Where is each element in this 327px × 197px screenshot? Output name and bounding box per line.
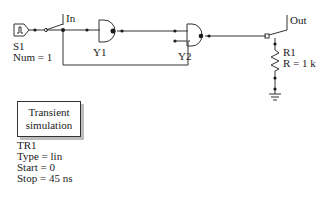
gate-y1-label: Y1 [93,47,106,58]
simulation-params: TR1 Type = lin Start = 0 Stop = 45 ns [17,140,72,184]
resistor-r1[interactable] [271,38,279,90]
output-switch[interactable] [265,15,287,38]
transient-simulation-block[interactable]: Transient simulation [17,101,81,137]
sim-block-line2: simulation [26,119,72,132]
sim-block-line1: Transient [28,106,69,119]
resistor-param: R = 1 k [283,58,316,69]
input-switch-label: In [66,13,75,24]
gate-y2-label: Y2 [178,51,191,62]
source-param: Num = 1 [13,52,52,63]
junction-dots [33,28,276,91]
input-switch[interactable] [44,14,63,32]
wire [63,30,190,65]
pulse-source-icon[interactable] [14,24,29,36]
output-switch-label: Out [290,15,307,26]
sim-stop: Stop = 45 ns [17,173,72,184]
ground-icon [269,90,281,100]
